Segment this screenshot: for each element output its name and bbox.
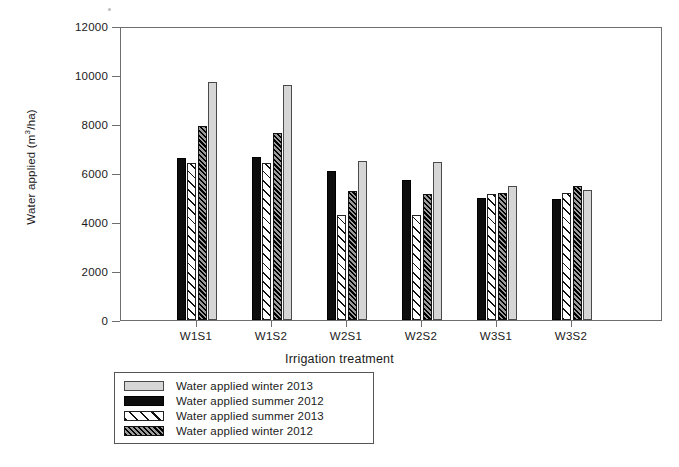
legend-swatch-summer-2012 <box>124 396 164 406</box>
legend-label-winter-2013: Water applied winter 2013 <box>176 380 313 392</box>
y-axis-tick-mark <box>112 76 120 77</box>
legend-item: Water applied winter 2012 <box>124 423 373 438</box>
legend-swatch-winter-2013 <box>124 381 164 391</box>
bar-w1s2-summer2013 <box>262 163 271 320</box>
y-axis-title-post: /ha) <box>25 109 37 130</box>
bar-w3s2-winter2012 <box>573 186 582 320</box>
bar-w1s2-winter2013 <box>283 85 292 320</box>
bar-w1s2-summer2012 <box>252 157 261 320</box>
bar-w2s1-summer2012 <box>327 171 336 320</box>
bar-w1s1-summer2013 <box>187 163 196 320</box>
bars-layer <box>121 28 661 320</box>
bar-w3s2-summer2013 <box>562 193 571 320</box>
bar-w2s1-winter2012 <box>348 191 357 320</box>
bar-w3s2-summer2012 <box>552 199 561 320</box>
y-axis-tick-label: 12000 <box>52 21 108 33</box>
bar-w2s2-summer2012 <box>402 180 411 320</box>
legend-swatch-winter-2012 <box>124 426 164 436</box>
bar-w3s1-winter2012 <box>498 193 507 320</box>
y-axis-tick-label: 4000 <box>52 217 108 229</box>
bar-w2s1-summer2013 <box>337 215 346 320</box>
x-axis-tick-mark <box>271 321 272 327</box>
x-axis-tick-mark <box>346 321 347 327</box>
bar-w1s1-winter2013 <box>208 82 217 320</box>
y-axis-tick-mark <box>112 27 120 28</box>
bar-w3s1-winter2013 <box>508 186 517 320</box>
bar-w1s1-summer2012 <box>177 158 186 320</box>
bar-w2s2-summer2013 <box>412 215 421 320</box>
bar-w2s2-winter2012 <box>423 194 432 320</box>
y-axis-title-superscript: 3 <box>23 130 32 135</box>
x-axis-tick-mark <box>421 321 422 327</box>
chart-legend: Water applied winter 2013 Water applied … <box>114 372 374 444</box>
plot-area <box>120 27 662 321</box>
bar-w2s2-winter2013 <box>433 162 442 320</box>
y-axis-tick-mark <box>112 223 120 224</box>
legend-item: Water applied winter 2013 <box>124 378 373 393</box>
legend-label-summer-2013: Water applied summer 2013 <box>176 410 324 422</box>
x-axis-tick-label: W1S1 <box>156 330 236 342</box>
bar-w1s2-winter2012 <box>273 133 282 320</box>
legend-item: Water applied summer 2012 <box>124 393 373 408</box>
y-axis-tick-mark <box>112 321 120 322</box>
x-axis-tick-mark <box>196 321 197 327</box>
x-axis-tick-mark <box>571 321 572 327</box>
x-axis-tick-label: W3S1 <box>456 330 536 342</box>
bar-w2s1-winter2013 <box>358 161 367 320</box>
y-axis-title: Water applied (m3/ha) <box>23 57 37 277</box>
x-axis-tick-mark <box>496 321 497 327</box>
legend-label-summer-2012: Water applied summer 2012 <box>176 395 324 407</box>
bar-w3s1-summer2012 <box>477 198 486 321</box>
y-axis-tick-label: 2000 <box>52 266 108 278</box>
legend-item: Water applied summer 2013 <box>124 408 373 423</box>
bar-w3s2-winter2013 <box>583 190 592 320</box>
y-axis-tick-label: 10000 <box>52 70 108 82</box>
y-axis-tick-label: 6000 <box>52 168 108 180</box>
x-axis-tick-label: W1S2 <box>231 330 311 342</box>
y-axis-tick-labels: 120001000080006000400020000 <box>44 0 108 467</box>
y-axis-title-pre: Water applied (m <box>25 134 37 224</box>
x-axis-title: Irrigation treatment <box>0 352 679 366</box>
y-axis-tick-label: 8000 <box>52 119 108 131</box>
y-axis-tick-mark <box>112 125 120 126</box>
x-axis-tick-label: W2S1 <box>306 330 386 342</box>
legend-label-winter-2012: Water applied winter 2012 <box>176 425 313 437</box>
y-axis-tick-mark <box>112 174 120 175</box>
bar-w3s1-summer2013 <box>487 194 496 320</box>
x-axis-tick-label: W3S2 <box>531 330 611 342</box>
bar-chart-figure: Water applied (m3/ha) 120001000080006000… <box>0 0 679 467</box>
y-axis-tick-mark <box>112 272 120 273</box>
bar-w1s1-winter2012 <box>198 126 207 320</box>
scan-artifact-speck <box>108 8 111 11</box>
x-axis-tick-label: W2S2 <box>381 330 461 342</box>
y-axis-tick-label: 0 <box>52 315 108 327</box>
legend-swatch-summer-2013 <box>124 411 164 421</box>
